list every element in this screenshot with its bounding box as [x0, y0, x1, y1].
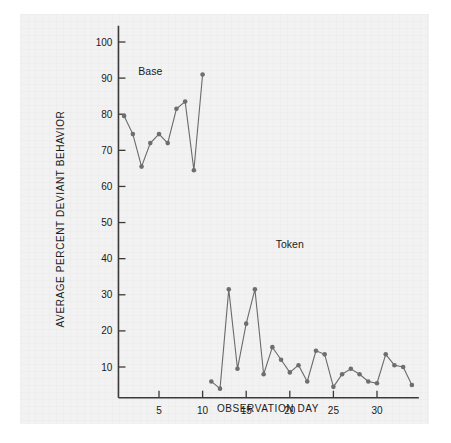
- x-tick-label: 10: [197, 405, 209, 416]
- phase-label-base: Base: [138, 65, 162, 77]
- x-tick-label: 25: [328, 405, 340, 416]
- y-tick-label: 20: [101, 325, 113, 336]
- data-point: [226, 287, 231, 292]
- data-point: [122, 114, 127, 119]
- data-point: [157, 132, 162, 137]
- y-tick-label: 60: [101, 181, 113, 192]
- data-point: [392, 363, 397, 368]
- data-point: [401, 365, 406, 370]
- y-tick-label: 80: [101, 109, 113, 120]
- data-point: [322, 352, 327, 357]
- y-tick-label: 50: [101, 217, 113, 228]
- data-point: [148, 141, 153, 146]
- y-tick-label: 30: [101, 289, 113, 300]
- data-point: [183, 99, 188, 104]
- x-axis-title: OBSERVATION DAY: [217, 403, 319, 414]
- data-point: [200, 72, 205, 77]
- line-chart: 10203040506070809010051015202530 BaseTok…: [0, 0, 451, 443]
- y-tick-label: 40: [101, 253, 113, 264]
- data-point: [209, 379, 214, 384]
- y-axis-title: AVERAGE PERCENT DEVIANT BEHAVIOR: [55, 111, 66, 328]
- data-point: [253, 287, 258, 292]
- data-point: [244, 321, 249, 326]
- y-tick-label: 10: [101, 362, 113, 373]
- data-point: [296, 363, 301, 368]
- figure-root: 10203040506070809010051015202530 BaseTok…: [0, 0, 451, 443]
- data-point: [331, 385, 336, 390]
- data-point: [349, 367, 354, 372]
- data-point: [314, 348, 319, 353]
- data-point: [305, 379, 310, 384]
- data-point: [165, 141, 170, 146]
- phase-label-token: Token: [276, 238, 304, 250]
- data-point: [357, 372, 362, 377]
- data-point: [235, 367, 240, 372]
- data-point: [340, 372, 345, 377]
- data-point: [270, 345, 275, 350]
- data-point: [375, 381, 380, 386]
- x-tick-label: 5: [156, 405, 162, 416]
- data-point: [261, 372, 266, 377]
- y-tick-label: 100: [96, 37, 113, 48]
- data-point: [192, 168, 197, 173]
- data-point: [139, 164, 144, 169]
- data-point: [218, 386, 223, 391]
- data-point: [279, 357, 284, 362]
- y-tick-label: 70: [101, 145, 113, 156]
- data-point: [288, 370, 293, 375]
- data-point: [383, 352, 388, 357]
- data-point: [410, 383, 415, 388]
- data-point: [174, 107, 179, 112]
- x-tick-label: 30: [371, 405, 383, 416]
- data-point: [366, 379, 371, 384]
- y-tick-label: 90: [101, 73, 113, 84]
- data-point: [131, 132, 136, 137]
- plot-grid-texture: [20, 14, 429, 424]
